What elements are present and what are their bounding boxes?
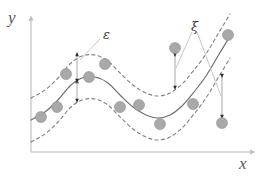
x-axis-label: x [239,155,247,172]
data-point [84,72,95,83]
measure-arrows [77,54,222,117]
xi-annotation-label: ξ [191,20,198,33]
diagram-canvas [0,0,266,180]
data-point [100,59,111,70]
y-axis-label: y [8,9,16,26]
lower-tube-boundary [31,58,230,142]
data-point [115,102,126,113]
data-point [52,102,63,113]
data-point [61,69,72,80]
xi-leader-2-line [197,32,221,96]
data-point [36,112,47,123]
epsilon-tube-boundaries [31,14,230,142]
epsilon-annotation-label: ε [103,28,110,41]
data-point [217,118,228,129]
axes-group [31,18,253,152]
data-point [170,43,181,54]
svr-epsilon-tube-figure: y x ε ξ [0,0,266,180]
data-point [134,100,145,111]
data-point [223,30,234,41]
upper-tube-boundary [31,14,230,98]
data-point [188,99,199,110]
data-point [155,119,166,130]
epsilon-leader-line [80,39,100,60]
